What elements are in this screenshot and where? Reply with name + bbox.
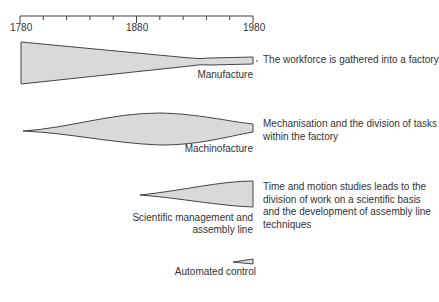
- stage-label-machinofacture: Machinofacture: [185, 143, 253, 155]
- stage-description-scientific-management: Time and motion studies leads to the div…: [263, 181, 431, 231]
- axis-label-end: 1980: [243, 22, 265, 33]
- description-line: within the factory: [263, 131, 437, 144]
- stage-label-scientific-management: Scientific management and assembly line: [132, 212, 253, 236]
- automated-control-shape: [233, 259, 253, 264]
- stage-description-manufacture: The workforce is gathered into a factory: [263, 54, 439, 67]
- axis-label-start: 1780: [10, 22, 32, 33]
- description-line: division of work on a scientific basis: [263, 194, 431, 207]
- label-line: assembly line: [132, 224, 253, 236]
- machinofacture-shape: [23, 113, 253, 145]
- axis-label-mid: 1880: [126, 22, 148, 33]
- stage-label-manufacture: Manufacture: [197, 69, 253, 81]
- description-line: techniques: [263, 219, 431, 232]
- stage-label-automated-control: Automated control: [175, 266, 256, 278]
- description-line: Time and motion studies leads to the: [263, 181, 431, 194]
- stage-description-machinofacture: Mechanisation and the division of tasks …: [263, 118, 437, 143]
- description-line: Mechanisation and the division of tasks: [263, 118, 437, 131]
- scientific-management-shape: [140, 181, 253, 207]
- description-line: and the development of assembly line: [263, 206, 431, 219]
- label-line: Scientific management and: [132, 212, 253, 224]
